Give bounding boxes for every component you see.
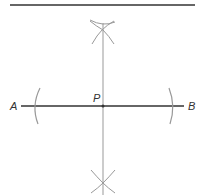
label-p: P <box>93 92 101 104</box>
label-a: A <box>9 100 17 112</box>
perpendicular-construction-diagram: A B P <box>0 0 209 195</box>
label-b: B <box>188 100 195 112</box>
point-p <box>102 105 105 108</box>
